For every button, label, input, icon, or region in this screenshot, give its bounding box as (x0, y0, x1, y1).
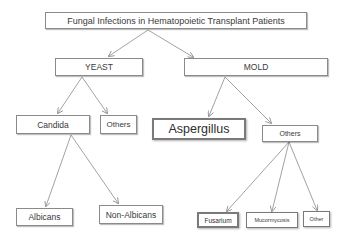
candida-node: Candida (16, 115, 90, 134)
arrow-others-fusarium (227, 142, 289, 211)
arrow-title-yeast (109, 30, 148, 56)
title-node: Fungal Infections in Hematopoietic Trans… (45, 12, 307, 29)
arrow-yeast-others (82, 77, 107, 113)
aspergillus-node: Aspergillus (152, 118, 246, 140)
mold-others-node: Others (262, 125, 318, 142)
arrow-title-mold (148, 30, 193, 57)
arrow-others-mucormycosis (272, 142, 289, 211)
other-node: Other (303, 211, 330, 227)
arrow-mold-others (225, 77, 271, 123)
arrow-candida-non-albicans (71, 135, 118, 203)
mold-node: MOLD (184, 58, 328, 76)
arrow-mold-aspergillus (209, 77, 225, 116)
albicans-node: Albicans (16, 208, 73, 226)
yeast-node: YEAST (55, 58, 143, 76)
arrow-others-other (289, 142, 317, 210)
non-albicans-node: Non-Albicans (99, 205, 163, 224)
arrow-yeast-candida (58, 77, 82, 113)
arrow-candida-albicans (46, 135, 71, 206)
fusarium-node: Fusarium (197, 212, 239, 228)
mucormycosis-node: Mucormycosis (246, 212, 298, 228)
yeast-others-node: Others (100, 115, 137, 134)
